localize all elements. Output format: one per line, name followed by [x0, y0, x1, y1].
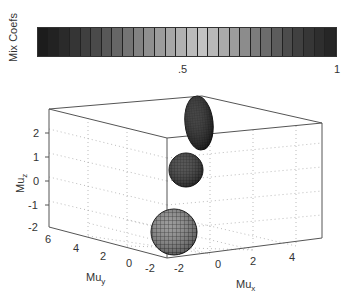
component-3-ellipsoid — [182, 95, 215, 152]
y-axis-label: Muy — [86, 272, 105, 286]
x-axis-label-sub: x — [251, 284, 255, 293]
z-tick-neg1: -1 — [28, 200, 38, 211]
z-axis-ticks — [45, 133, 49, 205]
z-axis-label-sub: z — [20, 174, 29, 178]
x-axis-label-text: Mu — [236, 278, 251, 290]
x-axis-label: Mux — [236, 279, 255, 293]
z-tick-2: 2 — [33, 128, 39, 139]
x-tick-0: 0 — [215, 259, 221, 270]
z-axis-label: Muz — [15, 174, 29, 193]
z-tick-neg2: -2 — [28, 222, 38, 233]
y-tick-neg2: -2 — [145, 263, 155, 274]
y-tick-0: 0 — [126, 258, 132, 269]
y-tick-4: 4 — [73, 243, 79, 254]
component-1-sphere — [151, 209, 197, 255]
y-tick-6: 6 — [45, 234, 51, 245]
plot-3d — [0, 0, 351, 302]
y-axis-label-sub: y — [101, 277, 105, 286]
x-tick-4: 4 — [289, 252, 295, 263]
x-tick-2: 2 — [250, 256, 256, 267]
y-axis-label-text: Mu — [86, 271, 101, 283]
z-tick-1: 1 — [33, 152, 39, 163]
y-tick-2: 2 — [100, 251, 106, 262]
x-tick-neg2: -2 — [174, 263, 184, 274]
component-2-sphere — [169, 153, 203, 187]
z-tick-0: 0 — [33, 176, 39, 187]
z-axis-label-text: Mu — [14, 178, 26, 193]
